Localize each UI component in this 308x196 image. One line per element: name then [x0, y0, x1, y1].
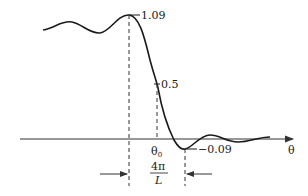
width-numerator: 4π [151, 160, 165, 173]
half-value-label: 0.5 [161, 78, 179, 91]
min-value-label: −0.09 [198, 143, 232, 156]
diagram-canvas: θ 1.09 0.5 −0.09 θ0 4π L [0, 0, 308, 196]
theta0-label: θ0 [151, 145, 162, 159]
width-denominator: L [154, 174, 162, 187]
peak-value-label: 1.09 [141, 9, 166, 22]
theta-axis-label: θ [288, 144, 295, 157]
